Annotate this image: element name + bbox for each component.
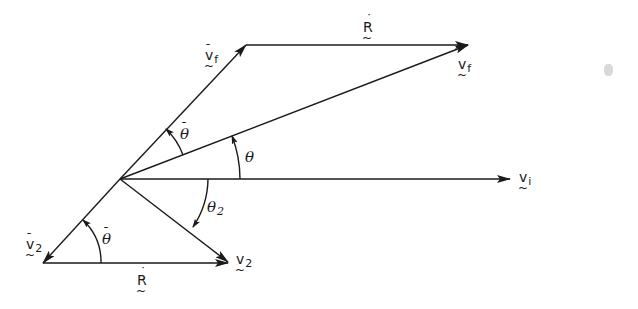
vector-vf — [120, 45, 468, 179]
vector-diagram — [0, 0, 638, 309]
label-r-dot-bottom: R˙~ — [137, 273, 147, 287]
angle-arc-theta-bar-bottom — [83, 220, 101, 263]
scan-speck — [604, 64, 613, 76]
vector-v2-bar — [43, 179, 120, 263]
label-vi: v~i — [519, 170, 531, 184]
label-theta-bar-bottom: θ¯ — [102, 232, 111, 247]
angle-arc-theta-2 — [193, 179, 208, 227]
label-v2: v~2 — [236, 252, 252, 266]
label-theta: θ — [245, 150, 254, 165]
label-theta-2: θ2 — [207, 200, 224, 215]
label-theta-bar-top: θ¯ — [180, 127, 189, 142]
label-r-dot-top: R˙~ — [363, 20, 373, 34]
label-vf-bar: v¯~f — [205, 48, 218, 62]
vector-vf-bar — [120, 45, 246, 179]
vector-v2 — [120, 179, 228, 262]
angle-arc-theta — [232, 136, 240, 179]
label-v2-bar: v¯~2 — [26, 237, 42, 251]
label-vf: v~f — [458, 57, 471, 71]
